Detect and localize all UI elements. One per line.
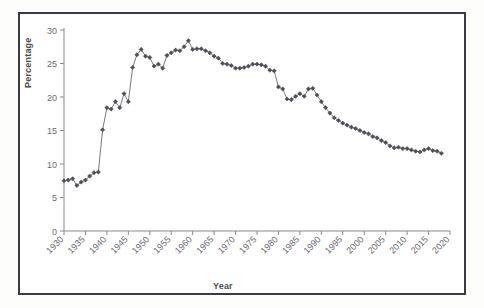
y-axis-tick-label: 20 <box>47 93 57 103</box>
data-point-marker <box>191 47 195 51</box>
data-point-marker <box>272 69 276 73</box>
data-point-marker <box>414 149 418 153</box>
line-chart-plot: 0510152025301930193519401945195019551960… <box>20 14 464 293</box>
data-point-marker <box>126 100 130 104</box>
y-axis-tick-label: 25 <box>47 59 57 69</box>
data-point-marker <box>251 62 255 66</box>
y-axis-tick-label: 10 <box>47 160 57 170</box>
x-axis-tick-label: 1935 <box>66 234 87 255</box>
x-axis-tick-label: 1955 <box>151 234 172 255</box>
data-point-marker <box>431 149 435 153</box>
data-point-marker <box>435 149 439 153</box>
data-point-marker <box>131 65 135 69</box>
data-point-marker <box>242 65 246 69</box>
data-point-marker <box>238 66 242 70</box>
data-point-marker <box>109 107 113 111</box>
data-point-marker <box>362 130 366 134</box>
data-point-marker <box>409 148 413 152</box>
x-axis-tick-label: 1995 <box>323 234 344 255</box>
y-axis-tick-label: 0 <box>52 227 57 237</box>
x-axis-tick-label: 2020 <box>430 234 451 255</box>
data-point-marker <box>148 55 152 59</box>
data-point-marker <box>426 146 430 150</box>
x-axis-tick-label: 1950 <box>130 234 151 255</box>
data-point-marker <box>396 145 400 149</box>
data-point-marker <box>345 123 349 127</box>
data-point-marker <box>203 49 207 53</box>
data-point-marker <box>259 63 263 67</box>
data-point-marker <box>405 146 409 150</box>
data-point-marker <box>66 178 70 182</box>
data-point-marker <box>105 106 109 110</box>
data-point-marker <box>152 64 156 68</box>
y-axis-tick-label: 30 <box>47 26 57 36</box>
x-axis-tick-label: 1985 <box>280 234 301 255</box>
y-axis-tick-label: 15 <box>47 126 57 136</box>
data-point-marker <box>225 62 229 66</box>
x-axis-tick-label: 1975 <box>237 234 258 255</box>
data-point-marker <box>246 64 250 68</box>
x-axis-tick-label: 2015 <box>409 234 430 255</box>
chart-frame: 0510152025301930193519401945195019551960… <box>18 12 466 295</box>
x-axis-tick-label: 2005 <box>366 234 387 255</box>
data-point-marker <box>422 148 426 152</box>
x-axis-tick-label: 1960 <box>173 234 194 255</box>
data-point-marker <box>199 47 203 51</box>
data-point-marker <box>195 47 199 51</box>
x-axis-tick-label: 1970 <box>216 234 237 255</box>
x-axis-tick-label: 1990 <box>302 234 323 255</box>
data-point-marker <box>255 62 259 66</box>
data-point-marker <box>358 128 362 132</box>
x-axis-tick-label: 2000 <box>344 234 365 255</box>
x-axis-tick-label: 2010 <box>387 234 408 255</box>
data-point-marker <box>96 170 100 174</box>
data-point-marker <box>62 179 66 183</box>
data-point-marker <box>122 92 126 96</box>
chart-figure: 0510152025301930193519401945195019551960… <box>0 0 484 308</box>
data-point-marker <box>401 146 405 150</box>
x-axis-title: Year <box>213 281 233 291</box>
x-axis-tick-label: 1965 <box>194 234 215 255</box>
data-point-marker <box>285 97 289 101</box>
x-axis-tick-label: 1980 <box>259 234 280 255</box>
data-point-marker <box>392 146 396 150</box>
data-point-marker <box>306 87 310 91</box>
x-axis-tick-label: 1930 <box>44 234 65 255</box>
y-axis-tick-label: 5 <box>52 193 57 203</box>
data-point-marker <box>281 87 285 91</box>
x-axis-tick-label: 1945 <box>109 234 130 255</box>
data-point-marker <box>418 150 422 154</box>
data-point-marker <box>276 85 280 89</box>
data-point-marker <box>439 151 443 155</box>
data-point-marker <box>354 126 358 130</box>
data-point-marker <box>349 125 353 129</box>
data-point-marker <box>101 128 105 132</box>
y-axis-title: Percentage <box>23 37 33 88</box>
x-axis-tick-label: 1940 <box>87 234 108 255</box>
